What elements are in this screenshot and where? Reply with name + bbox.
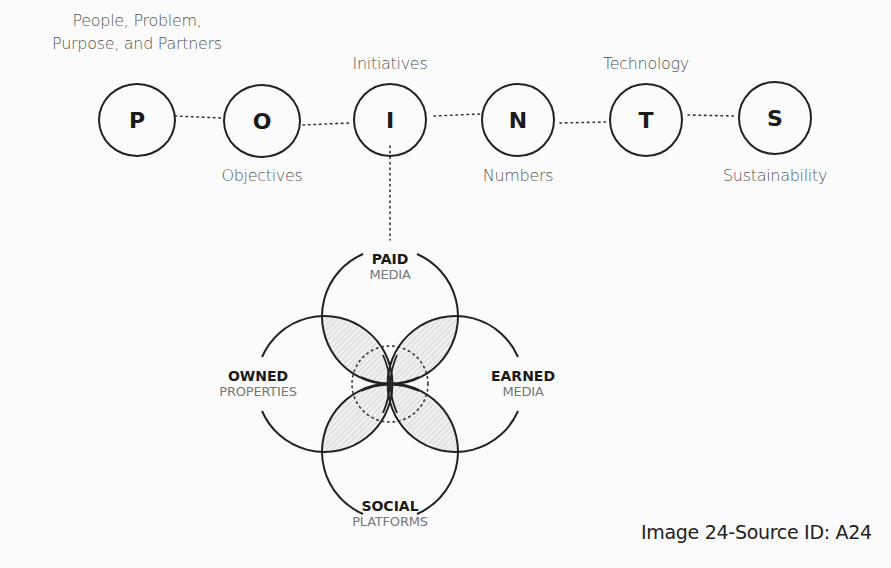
node-n: N <box>481 83 555 157</box>
node-label-s: Sustainability <box>723 166 827 185</box>
node-label-p-line2: Purpose, and Partners <box>52 32 222 55</box>
connector-o-i <box>303 123 350 125</box>
node-t: T <box>609 83 683 157</box>
node-i: I <box>353 83 427 157</box>
venn-label-social-bold: SOCIAL <box>352 499 428 514</box>
node-label-p-line1: People, Problem, <box>52 9 222 32</box>
node-s: S <box>738 81 812 155</box>
venn-label-owned-light: PROPERTIES <box>219 384 297 399</box>
venn-label-owned-bold: OWNED <box>219 369 297 384</box>
venn-label-paid-bold: PAID <box>369 252 410 267</box>
venn-label-earned-bold: EARNED <box>491 369 555 384</box>
node-label-n: Numbers <box>483 166 554 185</box>
node-label-p: People, Problem, Purpose, and Partners <box>52 9 222 55</box>
connector-t-s <box>688 115 735 116</box>
venn-label-paid: PAID MEDIA <box>369 252 410 282</box>
image-caption: Image 24-Source ID: A24 <box>641 521 872 543</box>
venn-label-social-light: PLATFORMS <box>352 514 428 529</box>
connector-p-o <box>175 116 222 118</box>
node-label-o: Objectives <box>221 166 302 185</box>
venn-label-earned-light: MEDIA <box>491 384 555 399</box>
venn-label-paid-light: MEDIA <box>369 267 410 282</box>
venn-label-owned: OWNED PROPERTIES <box>219 369 297 399</box>
venn-label-earned: EARNED MEDIA <box>491 369 555 399</box>
node-label-i: Initiatives <box>353 54 428 73</box>
venn-label-social: SOCIAL PLATFORMS <box>352 499 428 529</box>
connector-n-t <box>560 122 607 123</box>
node-label-t: Technology <box>603 54 689 73</box>
node-o: O <box>223 84 301 158</box>
node-p: P <box>98 83 176 157</box>
connector-i-n <box>434 114 480 116</box>
